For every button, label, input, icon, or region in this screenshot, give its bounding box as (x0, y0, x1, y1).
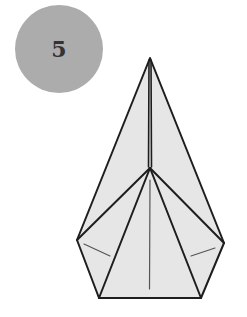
step-badge: 5 (15, 5, 103, 93)
upper-center-fold-left (149, 60, 150, 167)
folded-paper-model (77, 58, 224, 298)
center-crease (150, 180, 151, 289)
origami-step-diagram: 5 (0, 0, 247, 317)
step-number: 5 (51, 36, 66, 62)
upper-center-fold-right (151, 60, 152, 167)
